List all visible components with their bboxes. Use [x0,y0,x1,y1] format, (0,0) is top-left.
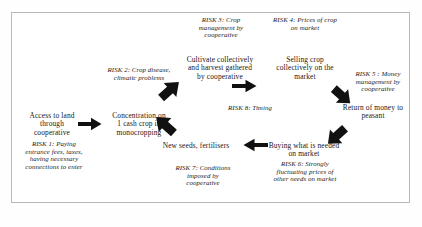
diagram-canvas: Access to land through cooperative Conce… [0,0,422,227]
arrow-return-to-buying [324,124,349,148]
page-margin-left [0,0,11,227]
arrow-concentration-to-cultivate [157,78,183,102]
node-new-seeds-fertilisers: New seeds, fertilisers [150,142,242,150]
page-margin-top [0,0,422,12]
risk-label-6: RISK 6: Strongly fluctuating prices of o… [256,160,354,183]
risk-label-3: RISK 3: Crop management by cooperative [178,16,264,39]
arrow-cultivate-to-selling [232,79,257,93]
risk-label-8: RISK 8: Timing [210,104,290,112]
node-selling-crop: Selling crop collectively on the market [264,56,346,81]
risk-label-7: RISK 7: Conditions imposed by cooperativ… [160,164,246,187]
page-margin-bottom [0,203,422,227]
arrow-selling-to-return [330,84,354,108]
arrow-buying-to-seeds [243,138,268,152]
arrow-access-to-concentration [78,117,102,131]
risk-label-1: RISK 1: Paying entrance fees, taxes, hav… [8,140,100,171]
arrow-seeds-to-concentration [152,113,178,137]
risk-label-4: RISK 4: Prices of crop on market [258,16,352,31]
